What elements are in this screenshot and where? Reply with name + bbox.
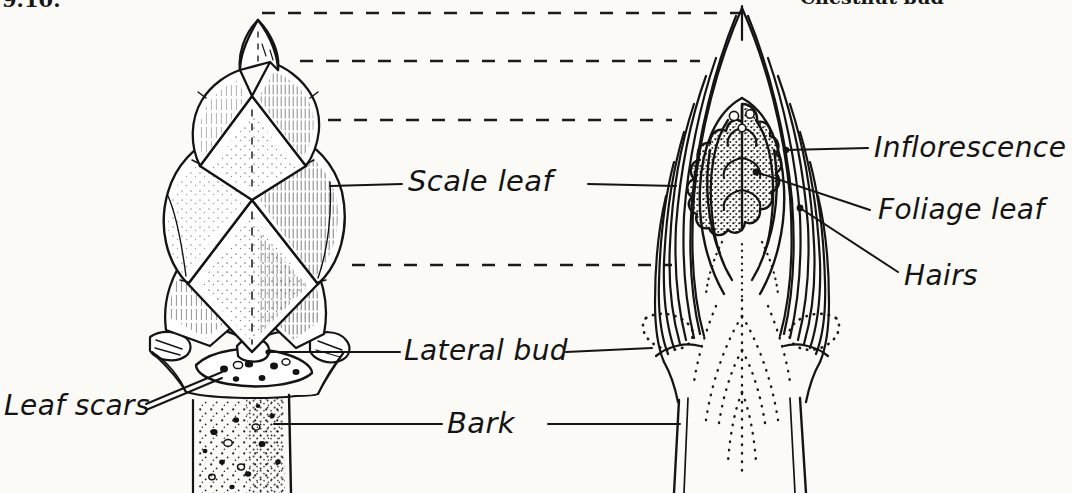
label-inflorescence: Inflorescence (874, 134, 1066, 162)
leader-scale-leaf-right (588, 184, 676, 186)
figure-number: 9.10. (2, 0, 60, 10)
label-lateral-bud: Lateral bud (404, 337, 568, 365)
bud-apex-scale (240, 20, 279, 70)
label-leaf-scars: Leaf scars (4, 392, 150, 420)
exterior-bud-drawing (150, 20, 349, 493)
botanical-illustration (0, 0, 1072, 493)
leader-leaf-scars-a (146, 372, 222, 404)
section-twig (674, 398, 806, 493)
label-foliage-leaf: Foliage leaf (878, 196, 1045, 224)
label-scale-leaf: Scale leaf (408, 167, 553, 196)
label-bark: Bark (447, 409, 515, 438)
figure-caption: Chestnut bud (800, 0, 944, 7)
sectioned-bud-drawing (643, 6, 839, 493)
inflorescence-core (687, 104, 781, 235)
hairs-dotted (706, 242, 778, 298)
twig-internal-dotted (694, 300, 790, 478)
twig-bark (193, 395, 291, 493)
figure-container: 9.10. Chestnut bud Scale leaf Lateral bu… (0, 0, 1072, 493)
label-hairs: Hairs (904, 262, 978, 290)
leader-lateral-bud-right (566, 348, 652, 352)
